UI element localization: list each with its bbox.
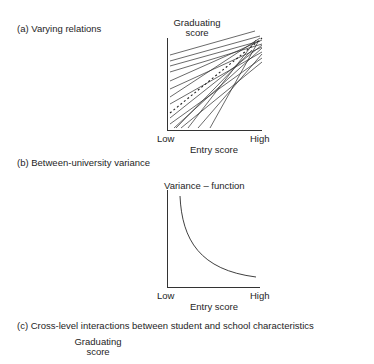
panel-a-lines — [170, 31, 262, 128]
panel-b-variance-curve — [180, 196, 256, 277]
diagram-canvas — [0, 0, 374, 364]
panel-a-average-line — [170, 38, 262, 113]
